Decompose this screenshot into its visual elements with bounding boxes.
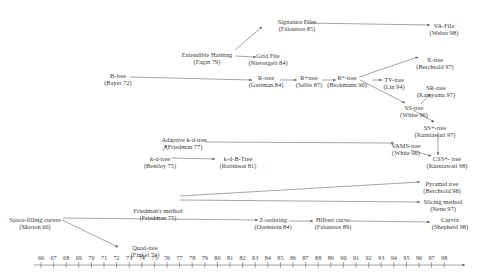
node-rplustree: R+tree(Sellis 87)	[296, 74, 322, 89]
tick-label-87: 87	[303, 254, 309, 261]
tick-label-69: 69	[76, 254, 82, 261]
tick-label-90: 90	[340, 254, 346, 261]
node-label: TV-tree	[383, 76, 404, 83]
node-rstartree: R*-tree(Beckmann 90)	[327, 74, 367, 89]
tick-label-71: 71	[101, 254, 107, 261]
node-curvix: Curvix(Shepherd 98)	[432, 216, 468, 231]
node-sfc: Space-filling curves(Morton 66)	[9, 216, 60, 231]
tick-label-81: 81	[227, 254, 233, 261]
node-reference: (Faloutsos 89)	[315, 223, 352, 230]
node-label: SS-tree	[400, 104, 428, 111]
node-label: Slicing method	[424, 198, 463, 205]
node-kdtree: k-d-tree(Bentley 75)	[144, 155, 176, 170]
node-reference: (Berchtold 97)	[416, 63, 453, 70]
node-reference: (Sellis 87)	[296, 81, 322, 88]
node-reference: (Friedman 75)	[134, 214, 183, 221]
node-reference: (White 96)	[391, 149, 420, 156]
tick-label-89: 89	[328, 254, 334, 261]
node-reference: (Bentley 75)	[144, 162, 176, 169]
node-label: SR-tree	[417, 84, 455, 91]
node-ssplustree: SS+-tree(Kurniawati 97)	[415, 124, 456, 139]
index-evolution-diagram: Signature Files(Faloutsos 85)VA-File(Web…	[0, 0, 479, 276]
node-reference: (Shepherd 98)	[432, 223, 468, 230]
node-label: Curvix	[432, 216, 468, 223]
node-reference: (Guttman 84)	[249, 81, 284, 88]
tick-label-85: 85	[277, 254, 283, 261]
node-label: Friedman's method	[134, 207, 183, 214]
tick-label-78: 78	[189, 254, 195, 261]
node-reference: (Kurniawati 98)	[427, 162, 468, 169]
node-reference: (Katayama 97)	[417, 91, 455, 98]
node-label: Z-ordering	[254, 216, 291, 223]
node-label: VA-File	[430, 22, 459, 29]
node-xtree: X-tree(Berchtold 97)	[416, 56, 453, 71]
tick-label-70: 70	[88, 254, 94, 261]
node-label: B-tree	[104, 72, 132, 79]
node-reference: (Fagin 79)	[182, 58, 233, 65]
tick-label-75: 75	[151, 254, 157, 261]
node-label: CSS+- tree	[427, 155, 468, 162]
tick-label-77: 77	[177, 254, 183, 261]
tick-label-88: 88	[315, 254, 321, 261]
node-reference: (Berchtold 98)	[423, 187, 460, 194]
node-friedman: Friedman's method(Friedman 75)	[134, 207, 183, 222]
node-slicing: Slicing method(Nene 97)	[424, 198, 463, 213]
node-label: R-tree	[249, 74, 284, 81]
node-vamstree: VAMS-tree(White 96)	[391, 142, 420, 157]
tick-label-96: 96	[416, 254, 422, 261]
node-label: R*-tree	[327, 74, 367, 81]
node-vafile: VA-File(Weber 98)	[430, 22, 459, 37]
tick-label-72: 72	[114, 254, 120, 261]
tick-label-67: 67	[51, 254, 57, 261]
node-label: VAMS-tree	[391, 142, 420, 149]
node-reference: (Beckmann 90)	[327, 81, 367, 88]
node-label: k-d-B-Tree	[220, 155, 257, 162]
tick-label-92: 92	[366, 254, 372, 261]
node-label: X-tree	[416, 56, 453, 63]
tick-label-94: 94	[391, 254, 397, 261]
node-tvtree: TV-tree(Lin 94)	[383, 76, 404, 91]
tick-label-83: 83	[252, 254, 258, 261]
diagram-edges	[0, 0, 479, 276]
node-label: Extendible Hashing	[182, 51, 233, 58]
node-reference: (Orenstein 84)	[254, 223, 291, 230]
node-srtree: SR-tree(Katayama 97)	[417, 84, 455, 99]
node-label: R+tree	[296, 74, 322, 81]
node-reference: (Weber 98)	[430, 29, 459, 36]
node-reference: (Nene 97)	[424, 205, 463, 212]
node-hilbert: Hilbert curve(Faloutsos 89)	[315, 216, 352, 231]
node-reference: (Kurniawati 97)	[415, 131, 456, 138]
node-btree: B-tree(Bayer 72)	[104, 72, 132, 87]
node-gridfile: Grid File(Nievergelt 84)	[248, 52, 287, 67]
node-label: Adaptive k-d-tree	[161, 136, 206, 143]
node-kdbtree: k-d-B-Tree(Robinson 81)	[220, 155, 257, 170]
node-rtree: R-tree(Guttman 84)	[249, 74, 284, 89]
node-reference: (Morton 66)	[9, 223, 60, 230]
node-sstree: SS-tree(White 96)	[400, 104, 428, 119]
node-label: Pyramid tree	[423, 180, 460, 187]
tick-label-68: 68	[63, 254, 69, 261]
tick-label-93: 93	[378, 254, 384, 261]
node-exthash: Extendible Hashing(Fagin 79)	[182, 51, 233, 66]
tick-label-80: 80	[214, 254, 220, 261]
node-label: SS+-tree	[415, 124, 456, 131]
tick-label-84: 84	[265, 254, 271, 261]
tick-label-97: 97	[429, 254, 435, 261]
tick-label-98: 98	[441, 254, 447, 261]
tick-label-76: 76	[164, 254, 170, 261]
node-pyramid: Pyramid tree(Berchtold 98)	[423, 180, 460, 195]
node-reference: (Lin 94)	[383, 83, 404, 90]
node-label: Signature Files	[278, 18, 317, 25]
node-reference: (Robinson 81)	[220, 162, 257, 169]
tick-label-82: 82	[240, 254, 246, 261]
node-label: Space-filling curves	[9, 216, 60, 223]
tick-label-66: 66	[38, 254, 44, 261]
tick-label-86: 86	[290, 254, 296, 261]
node-label: Hilbert curve	[315, 216, 352, 223]
tick-label-95: 95	[403, 254, 409, 261]
node-sigfiles: Signature Files(Faloutsos 85)	[278, 18, 317, 33]
tick-label-73: 73	[126, 254, 132, 261]
node-zorder: Z-ordering(Orenstein 84)	[254, 216, 291, 231]
node-reference: (Friedman 77)	[161, 143, 206, 150]
tick-label-79: 79	[202, 254, 208, 261]
